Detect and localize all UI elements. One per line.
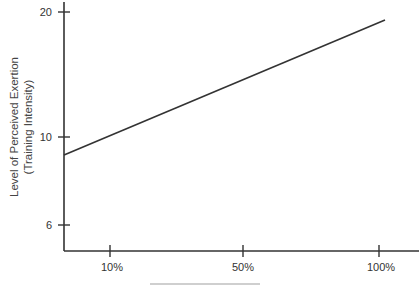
y-tick-label-10: 10 (40, 131, 52, 143)
exertion-chart: 20 10 6 10% 50% 100% Level of Perceived … (0, 0, 420, 285)
y-axis-title-line1: Level of Perceived Exertion (8, 57, 20, 197)
x-tick-label-50: 50% (232, 261, 254, 273)
y-tick-label-6: 6 (46, 219, 52, 231)
x-tick-label-10: 10% (101, 261, 123, 273)
exertion-line (64, 20, 385, 155)
y-axis-title-line2: (Training Intensity) (22, 79, 34, 174)
x-tick-label-100: 100% (367, 261, 395, 273)
y-tick-label-20: 20 (40, 6, 52, 18)
